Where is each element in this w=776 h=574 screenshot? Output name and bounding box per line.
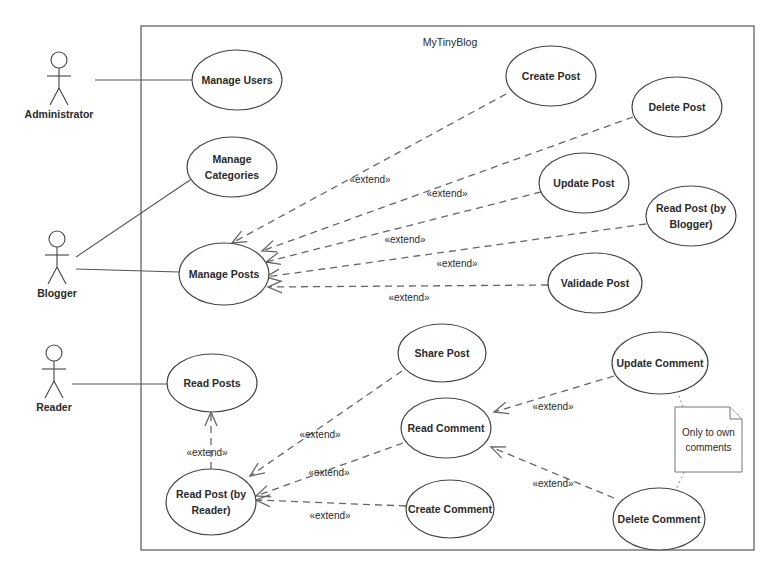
extend-label: «extend» <box>309 510 351 521</box>
use-case-label: Share Post <box>415 347 470 359</box>
use-case-label: Update Comment <box>617 357 704 369</box>
actor-head-icon <box>51 52 67 68</box>
extend-label: «extend» <box>299 429 341 440</box>
use-case-ellipse[interactable] <box>166 469 256 535</box>
associations <box>72 80 192 384</box>
note-text: comments <box>685 442 731 453</box>
association-line <box>76 269 179 272</box>
actor-leg-icon <box>48 267 57 284</box>
use-case-label: Read Comment <box>407 422 485 434</box>
use-case-label: Manage Posts <box>189 268 260 280</box>
extend-relationship: «extend» <box>256 443 403 497</box>
extend-label: «extend» <box>308 467 350 478</box>
actors: AdministratorBloggerReader <box>25 52 94 413</box>
use-case-read-post-blogger[interactable]: Read Post (byBlogger) <box>646 186 736 246</box>
note: Only to owncomments <box>675 407 742 472</box>
actor-head-icon <box>49 231 65 247</box>
association-line <box>76 180 190 257</box>
extend-line <box>250 371 402 476</box>
extend-label: «extend» <box>186 447 228 458</box>
actor-head-icon <box>46 345 62 361</box>
actor-label: Administrator <box>25 108 94 120</box>
use-case-delete-post[interactable]: Delete Post <box>632 77 722 137</box>
actor-leg-icon <box>59 88 68 105</box>
use-case-label: Read Post (by <box>656 202 726 214</box>
note-anchor-line <box>676 472 684 490</box>
actor-label: Reader <box>36 401 72 413</box>
extend-relationship: «extend» <box>250 371 402 476</box>
extend-label: «extend» <box>532 401 574 412</box>
actor-leg-icon <box>50 88 59 105</box>
use-case-label: Delete Comment <box>618 513 701 525</box>
actor-leg-icon <box>54 381 63 398</box>
use-case-label: Create Comment <box>408 503 493 515</box>
extend-relationship: «extend» <box>494 376 614 414</box>
actor-leg-icon <box>57 267 66 284</box>
use-case-create-comment[interactable]: Create Comment <box>406 480 494 538</box>
use-case-read-posts[interactable]: Read Posts <box>167 354 257 412</box>
note-fold-icon <box>730 407 742 419</box>
actor-reader[interactable]: Reader <box>36 345 72 413</box>
open-arrowhead-icon <box>262 241 277 252</box>
extend-line <box>268 285 548 287</box>
actor-leg-icon <box>45 381 54 398</box>
actor-blogger[interactable]: Blogger <box>37 231 77 299</box>
actor-administrator[interactable]: Administrator <box>25 52 94 120</box>
use-case-label: Read Post (by <box>176 488 246 500</box>
extend-label: «extend» <box>384 234 426 245</box>
use-case-ellipse[interactable] <box>187 137 277 197</box>
use-case-diagram: MyTinyBlog «extend»«extend»«extend»«exte… <box>0 0 776 574</box>
use-case-manage-posts[interactable]: Manage Posts <box>179 243 269 305</box>
extend-relationship: «extend» <box>256 495 406 521</box>
note-anchor-line <box>678 393 683 407</box>
use-case-label: Read Posts <box>183 377 240 389</box>
extend-relationship: «extend» <box>268 281 548 303</box>
note-text: Only to own <box>682 427 735 438</box>
use-case-update-comment[interactable]: Update Comment <box>612 332 708 394</box>
open-arrowhead-icon <box>232 231 247 243</box>
extend-label: «extend» <box>436 258 478 269</box>
use-case-share-post[interactable]: Share Post <box>398 324 486 382</box>
system-title: MyTinyBlog <box>423 36 478 48</box>
extend-relationship: «extend» <box>266 192 541 264</box>
use-case-manage-users[interactable]: Manage Users <box>192 50 282 110</box>
use-case-label: Manage Users <box>201 74 272 86</box>
extend-line <box>256 500 406 506</box>
extend-label: «extend» <box>349 174 391 185</box>
use-case-label: Create Post <box>522 70 581 82</box>
extend-line <box>491 447 614 498</box>
extend-label: «extend» <box>532 478 574 489</box>
extend-relationship: «extend» <box>186 412 228 469</box>
extend-label: «extend» <box>426 188 468 199</box>
use-case-ellipse[interactable] <box>646 186 736 246</box>
use-case-create-post[interactable]: Create Post <box>506 46 596 106</box>
use-case-delete-comment[interactable]: Delete Comment <box>613 488 705 550</box>
open-arrowhead-icon <box>491 447 506 458</box>
use-case-label: Reader) <box>191 504 230 516</box>
actor-label: Blogger <box>37 287 77 299</box>
use-case-label: Categories <box>205 169 259 181</box>
use-case-update-post[interactable]: Update Post <box>539 153 629 213</box>
use-case-read-comment[interactable]: Read Comment <box>401 398 491 458</box>
use-case-read-post-reader[interactable]: Read Post (byReader) <box>166 469 256 535</box>
use-case-label: Update Post <box>553 177 615 189</box>
use-case-label: Delete Post <box>648 101 706 113</box>
use-case-validade-post[interactable]: Validade Post <box>548 253 642 313</box>
use-case-label: Manage <box>212 153 251 165</box>
extend-label: «extend» <box>388 292 430 303</box>
use-case-label: Validade Post <box>561 277 630 289</box>
diagram-canvas: MyTinyBlog «extend»«extend»«extend»«exte… <box>0 0 776 574</box>
use-case-manage-categories[interactable]: ManageCategories <box>187 137 277 197</box>
extend-line <box>266 192 541 262</box>
extend-relationship: «extend» <box>491 447 614 498</box>
use-case-label: Blogger) <box>669 218 712 230</box>
